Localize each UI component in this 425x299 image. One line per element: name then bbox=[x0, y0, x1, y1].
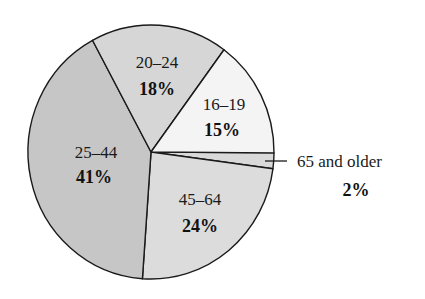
slice-label-25-44: 25–44 bbox=[75, 143, 118, 162]
pie-chart: 45–64 24% 25–44 41% 20–24 18% 16–19 15% … bbox=[0, 0, 425, 299]
slice-label-45-64: 45–64 bbox=[179, 190, 222, 209]
slice-pct-20-24: 18% bbox=[139, 79, 175, 99]
slice-label-20-24: 20–24 bbox=[136, 53, 179, 72]
slice-label-65-and-older: 65 and older bbox=[297, 152, 382, 171]
slice-pct-45-64: 24% bbox=[182, 216, 218, 236]
slice-pct-25-44: 41% bbox=[76, 167, 112, 187]
slice-pct-65-and-older: 2% bbox=[343, 180, 370, 200]
slice-pct-16-19: 15% bbox=[204, 120, 240, 140]
slice-label-16-19: 16–19 bbox=[203, 95, 246, 114]
